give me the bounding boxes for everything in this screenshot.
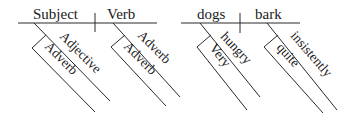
diagram-example: dogs bark hungry Very insistently quite: [181, 6, 337, 113]
subject-word: Subject: [33, 6, 79, 22]
sentence-diagrams: Subject Verb Adjective Adverb Adverb Adv…: [0, 0, 351, 119]
diagram-template: Subject Verb Adjective Adverb Adverb Adv…: [18, 6, 180, 112]
subject-word: dogs: [197, 6, 226, 22]
verb-word: Verb: [107, 6, 135, 22]
verb-word: bark: [255, 6, 282, 22]
